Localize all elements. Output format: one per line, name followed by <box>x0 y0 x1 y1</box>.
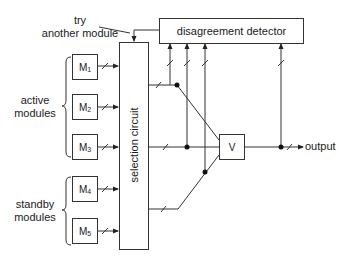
junction-dot <box>203 170 208 175</box>
selector-output-3 <box>148 155 219 209</box>
output-label: output <box>305 140 336 153</box>
module-m3: M3 <box>72 134 98 160</box>
note-line-1: try <box>40 14 120 27</box>
junction-dot <box>185 145 190 150</box>
active-modules-label: active modules <box>10 94 60 120</box>
detector-label: disagreement detector <box>177 25 286 37</box>
selector-output-1 <box>148 85 219 140</box>
junction-dot <box>279 145 284 150</box>
module-m4: M4 <box>72 176 98 202</box>
voter-box: V <box>219 134 245 160</box>
standby-modules-label: standby modules <box>8 198 62 224</box>
try-another-feedback-line <box>134 30 159 41</box>
junction-dot <box>175 83 180 88</box>
disagreement-detector-box: disagreement detector <box>159 18 304 44</box>
module-m5: M5 <box>72 218 98 244</box>
module-m1: M1 <box>72 54 98 80</box>
note-line-2: another module <box>40 27 120 40</box>
selection-circuit-label: selection circuit <box>128 95 140 195</box>
try-another-module-note: try another module <box>40 14 120 40</box>
voter-label: V <box>229 142 236 153</box>
module-m2: M2 <box>72 94 98 120</box>
